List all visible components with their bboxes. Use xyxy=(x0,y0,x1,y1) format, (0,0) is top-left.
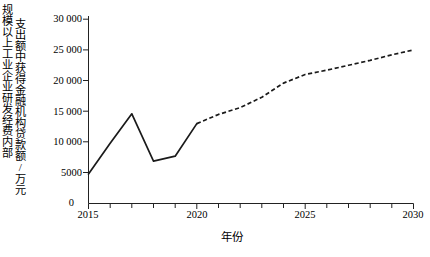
x-ticks xyxy=(89,204,414,210)
x-tick-label: 2020 xyxy=(187,209,208,220)
plot-area xyxy=(0,0,430,257)
x-tick-label: 2030 xyxy=(403,209,424,220)
series-line-actual xyxy=(89,114,197,174)
x-axis-title: 年份 xyxy=(0,228,430,244)
chart-figure: 规模以上工业企业研发经费内部 支出额中获得金融机构贷款额/万元 30 000 2… xyxy=(0,0,430,257)
y-major-ticks xyxy=(83,19,89,172)
x-tick-label: 2025 xyxy=(295,209,316,220)
series-line-forecast xyxy=(197,50,414,124)
x-tick-label: 2015 xyxy=(78,209,99,220)
x-axis-title-text: 年份 xyxy=(221,231,243,243)
